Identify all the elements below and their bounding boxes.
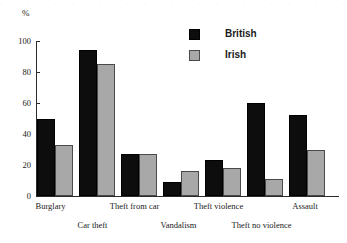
bar-irish-burglary[interactable] — [55, 145, 73, 196]
y-axis-tick-label: 20 — [5, 161, 31, 170]
x-axis-label-burglary: Burglary — [13, 202, 88, 211]
y-axis-title: % — [22, 8, 30, 18]
x-axis-label-vandalism: Vandalism — [136, 221, 221, 230]
bar-british-assault[interactable] — [289, 115, 307, 196]
y-axis-tick-label: 60 — [5, 99, 31, 108]
legend-swatch-irish — [189, 50, 200, 61]
legend-swatch-british — [189, 29, 200, 40]
x-axis-label-assault: Assault — [265, 202, 345, 211]
bar-british-theft-no-violence[interactable] — [247, 103, 265, 196]
bar-irish-theft-violence[interactable] — [223, 168, 241, 196]
legend-label-irish: Irish — [225, 48, 246, 62]
bar-chart: % 100 80 60 40 20 0 — [0, 0, 347, 243]
bar-british-car-theft[interactable] — [79, 50, 97, 196]
bar-british-theft-violence[interactable] — [205, 160, 223, 196]
y-axis-tick — [36, 196, 40, 197]
bar-british-theft-from-car[interactable] — [121, 154, 139, 196]
y-axis-tick-label: 40 — [5, 130, 31, 139]
bar-british-vandalism[interactable] — [163, 182, 181, 196]
bar-irish-assault[interactable] — [307, 150, 325, 197]
bar-irish-theft-from-car[interactable] — [139, 154, 157, 196]
bar-irish-car-theft[interactable] — [97, 64, 115, 196]
x-axis-label-theft-no-violence: Theft no violence — [214, 221, 309, 230]
bar-british-burglary[interactable] — [37, 119, 55, 197]
y-axis-tick-label: 0 — [5, 192, 31, 201]
bar-irish-theft-no-violence[interactable] — [265, 179, 283, 196]
y-axis-tick-label: 100 — [5, 37, 31, 46]
x-axis-label-car-theft: Car theft — [55, 221, 130, 230]
y-axis-tick-label: 80 — [5, 68, 31, 77]
x-axis-label-theft-from-car: Theft from car — [92, 202, 177, 211]
bar-irish-vandalism[interactable] — [181, 171, 199, 196]
x-axis-line — [36, 196, 339, 197]
plot-area — [37, 41, 339, 196]
x-axis-label-theft-violence: Theft violence — [176, 202, 261, 211]
legend-label-british: British — [225, 27, 257, 41]
